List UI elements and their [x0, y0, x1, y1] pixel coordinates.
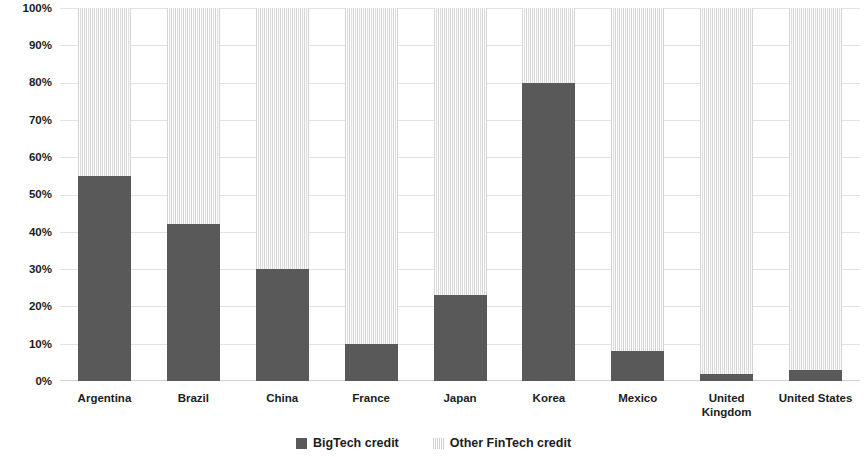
x-axis-category-label: Japan: [416, 386, 505, 428]
bar-stack[interactable]: [522, 8, 575, 381]
bar-stack[interactable]: [256, 8, 309, 381]
bar-segment-other-fintech-credit[interactable]: [434, 8, 487, 295]
bar-segment-other-fintech-credit[interactable]: [522, 8, 575, 83]
x-axis-category-label: Korea: [504, 386, 593, 428]
bar-slot: [149, 8, 238, 381]
y-axis-tick-label: 60%: [0, 151, 52, 163]
bar-stack[interactable]: [789, 8, 842, 381]
bar-segment-bigtech-credit[interactable]: [700, 374, 753, 381]
x-axis-category-label: Argentina: [60, 386, 149, 428]
x-axis-category-label: Mexico: [593, 386, 682, 428]
bar-segment-bigtech-credit[interactable]: [789, 370, 842, 381]
y-axis-tick-label: 90%: [0, 39, 52, 51]
x-axis-category-label: United States: [771, 386, 860, 428]
bar-segment-bigtech-credit[interactable]: [167, 224, 220, 381]
y-axis-tick-label: 30%: [0, 263, 52, 275]
legend-item-bigtech-credit: BigTech credit: [296, 436, 399, 450]
bar-stack[interactable]: [434, 8, 487, 381]
bar-stack[interactable]: [700, 8, 753, 381]
bar-segment-other-fintech-credit[interactable]: [700, 8, 753, 374]
bar-stack[interactable]: [345, 8, 398, 381]
y-axis-tick-label: 40%: [0, 226, 52, 238]
bar-segment-bigtech-credit[interactable]: [611, 351, 664, 381]
bar-series-container: [60, 8, 860, 381]
bar-segment-other-fintech-credit[interactable]: [78, 8, 131, 176]
bar-slot: [327, 8, 416, 381]
bar-segment-bigtech-credit[interactable]: [522, 83, 575, 381]
x-axis-category-label: Brazil: [149, 386, 238, 428]
bar-segment-bigtech-credit[interactable]: [434, 295, 487, 381]
bar-stack[interactable]: [78, 8, 131, 381]
y-axis-tick-label: 0%: [0, 375, 52, 387]
bar-slot: [416, 8, 505, 381]
bar-segment-other-fintech-credit[interactable]: [167, 8, 220, 224]
y-axis-tick-label: 80%: [0, 76, 52, 88]
x-axis-category-label: China: [238, 386, 327, 428]
y-axis-tick-label: 100%: [0, 2, 52, 14]
legend-item-label: BigTech credit: [313, 436, 399, 450]
bar-stack[interactable]: [611, 8, 664, 381]
bar-segment-other-fintech-credit[interactable]: [611, 8, 664, 351]
bar-slot: [593, 8, 682, 381]
bar-slot: [238, 8, 327, 381]
legend-item-other-fintech-credit: Other FinTech credit: [433, 436, 571, 450]
legend-swatch-icon: [296, 438, 307, 449]
chart-legend: BigTech credit Other FinTech credit: [0, 432, 867, 454]
bar-segment-other-fintech-credit[interactable]: [256, 8, 309, 269]
bar-slot: [682, 8, 771, 381]
y-axis-tick-label: 10%: [0, 338, 52, 350]
y-axis-tick-label: 20%: [0, 300, 52, 312]
bar-segment-other-fintech-credit[interactable]: [789, 8, 842, 370]
legend-item-label: Other FinTech credit: [450, 436, 571, 450]
y-axis-tick-label: 50%: [0, 188, 52, 200]
y-axis-tick-label: 70%: [0, 114, 52, 126]
bar-segment-bigtech-credit[interactable]: [78, 176, 131, 381]
stacked-bar-chart: 100% 90% 80% 70% 60% 50% 40% 30% 20% 10%…: [0, 0, 867, 457]
plot-area: [60, 8, 860, 381]
bar-segment-bigtech-credit[interactable]: [256, 269, 309, 381]
bar-slot: [771, 8, 860, 381]
bar-segment-bigtech-credit[interactable]: [345, 344, 398, 381]
bar-slot: [504, 8, 593, 381]
x-axis: ArgentinaBrazilChinaFranceJapanKoreaMexi…: [60, 386, 860, 428]
y-axis: 100% 90% 80% 70% 60% 50% 40% 30% 20% 10%…: [0, 0, 58, 389]
bar-segment-other-fintech-credit[interactable]: [345, 8, 398, 344]
x-axis-category-label: France: [327, 386, 416, 428]
x-axis-category-label: United Kingdom: [682, 386, 771, 428]
legend-swatch-icon: [433, 438, 444, 449]
bar-slot: [60, 8, 149, 381]
bar-stack[interactable]: [167, 8, 220, 381]
